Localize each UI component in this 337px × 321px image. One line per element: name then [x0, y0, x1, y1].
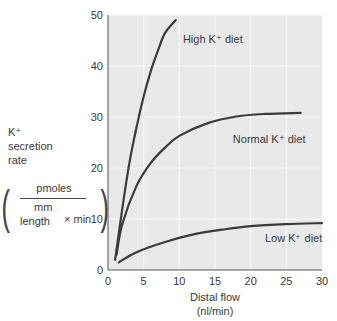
x-tick-label: 15: [209, 275, 221, 287]
right-paren: ): [100, 179, 108, 235]
x-axis-label: Distal flow(nl/min): [190, 291, 240, 317]
series-label-0: High K⁺ diet: [183, 33, 243, 45]
y-tick-label: 40: [91, 60, 103, 72]
chart: 01020304050051015202530 High K⁺ dietNorm…: [0, 0, 337, 321]
y-axis-units: ( pmoles mm length × min ): [6, 179, 104, 237]
units-denominator-bottom: length: [20, 215, 50, 227]
y-axis-label-line-3: rate: [8, 153, 27, 167]
x-tick-label: 30: [316, 275, 328, 287]
y-tick-label: 20: [91, 162, 103, 174]
x-axis-label-line: Distal flow: [190, 291, 240, 303]
y-tick-label: 50: [91, 9, 103, 21]
units-times-min: × min: [64, 213, 91, 225]
x-tick-label: 5: [141, 275, 147, 287]
units-denominator-top: mm: [34, 201, 52, 213]
series-label-1: Normal K⁺ diet: [233, 133, 306, 145]
y-axis-label-line-2: secretion: [8, 139, 53, 153]
y-axis-label-line-1: K⁺: [8, 125, 21, 139]
series-label-2: Low K⁺ diet: [265, 232, 322, 244]
units-numerator: pmoles: [22, 182, 86, 194]
x-axis-label-line: (nl/min): [197, 305, 234, 317]
y-tick-label: 30: [91, 111, 103, 123]
left-paren: (: [1, 179, 9, 235]
x-tick-label: 10: [173, 275, 185, 287]
x-tick-label: 0: [105, 275, 111, 287]
x-tick-label: 20: [245, 275, 257, 287]
fraction-bar: [20, 198, 86, 199]
x-tick-label: 25: [280, 275, 292, 287]
y-tick-label: 0: [97, 264, 103, 276]
